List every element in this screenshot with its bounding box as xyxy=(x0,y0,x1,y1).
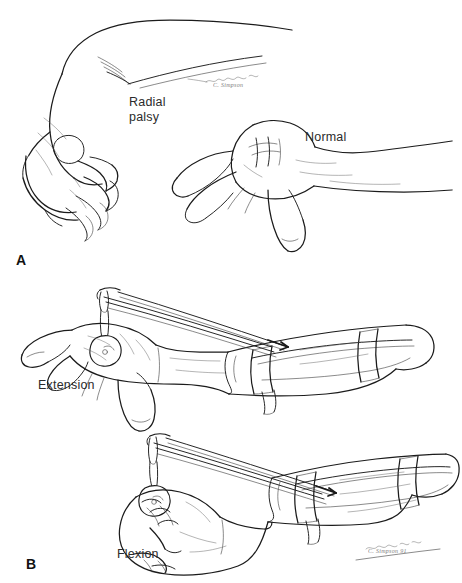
artist-signature-b: C. Simpson 91 xyxy=(368,548,407,554)
label-flexion: Flexion xyxy=(117,547,159,562)
artist-signature-a: C. Simpson xyxy=(213,82,243,88)
artist-signature-a-art xyxy=(188,75,258,82)
label-radial-palsy: Radial palsy xyxy=(129,95,166,125)
extension-splint-art xyxy=(21,288,434,431)
label-extension: Extension xyxy=(38,378,95,393)
panel-letter-a: A xyxy=(16,252,26,268)
label-normal: Normal xyxy=(305,130,346,145)
medical-illustration-figure: Radial palsy Normal C. Simpson A Extensi… xyxy=(0,0,462,583)
flexion-splint-art xyxy=(119,434,459,575)
radial-palsy-hand-art xyxy=(23,20,292,241)
panel-letter-b: B xyxy=(26,556,36,572)
